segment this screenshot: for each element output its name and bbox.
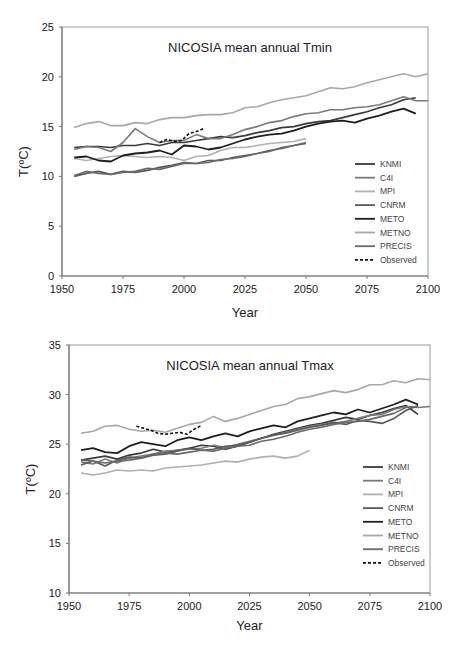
series-line-c4i bbox=[81, 407, 430, 465]
y-tick-label: 25 bbox=[49, 438, 61, 450]
legend-label: C4I bbox=[380, 173, 393, 183]
legend: KNMIC4IMPICNRMMETOMETNOPRECISObserved bbox=[355, 159, 417, 265]
x-tick-label: 2100 bbox=[418, 600, 442, 612]
legend-label: METO bbox=[380, 214, 405, 224]
legend-label: CNRM bbox=[380, 200, 406, 210]
series-line-cnrm bbox=[74, 144, 306, 177]
x-tick-label: 2075 bbox=[358, 600, 382, 612]
x-axis-title: Year bbox=[232, 305, 259, 320]
x-tick-label: 2025 bbox=[233, 283, 257, 295]
x-tick-label: 2100 bbox=[416, 283, 440, 295]
y-axis-title: T(ºC) bbox=[16, 146, 31, 177]
x-tick-label: 2050 bbox=[294, 283, 318, 295]
x-tick-label: 2000 bbox=[172, 283, 196, 295]
legend-label: PRECIS bbox=[388, 544, 420, 554]
tmax-chart-svg: 1015202530351950197520002025205020752100… bbox=[0, 323, 459, 646]
chart-title: NICOSIA mean annual Tmax bbox=[166, 358, 334, 373]
chart-title: NICOSIA mean annual Tmin bbox=[168, 40, 332, 55]
x-axis-title: Year bbox=[236, 618, 263, 633]
x-tick-label: 1950 bbox=[57, 600, 81, 612]
plot-area-frame bbox=[69, 345, 430, 593]
y-tick-label: 0 bbox=[48, 270, 54, 282]
y-tick-label: 35 bbox=[49, 339, 61, 351]
legend-label: MPI bbox=[388, 489, 403, 499]
legend-label: METNO bbox=[388, 531, 419, 541]
x-tick-label: 1975 bbox=[111, 283, 135, 295]
legend-label: KNMI bbox=[388, 462, 409, 472]
y-tick-label: 10 bbox=[42, 170, 54, 182]
y-tick-label: 10 bbox=[49, 587, 61, 599]
tmin-chart-svg: 05101520251950197520002025205020752100NI… bbox=[0, 0, 459, 323]
series-line-metno bbox=[81, 379, 430, 434]
y-tick-label: 30 bbox=[49, 389, 61, 401]
x-tick-label: 2025 bbox=[237, 600, 261, 612]
y-tick-label: 15 bbox=[49, 537, 61, 549]
legend-label: PRECIS bbox=[380, 241, 412, 251]
x-tick-label: 1975 bbox=[117, 600, 141, 612]
x-tick-label: 2000 bbox=[177, 600, 201, 612]
plot-area-frame bbox=[62, 27, 428, 276]
legend-label: METNO bbox=[380, 228, 411, 238]
x-tick-label: 2075 bbox=[355, 283, 379, 295]
legend-label: C4I bbox=[388, 476, 401, 486]
y-axis-title: T(ºC) bbox=[23, 464, 38, 495]
legend-label: METO bbox=[388, 517, 413, 527]
tmax-chart: 1015202530351950197520002025205020752100… bbox=[0, 323, 459, 646]
y-tick-label: 20 bbox=[42, 71, 54, 83]
y-tick-label: 5 bbox=[48, 220, 54, 232]
legend-label: CNRM bbox=[388, 503, 414, 513]
y-tick-label: 20 bbox=[49, 488, 61, 500]
y-tick-label: 15 bbox=[42, 121, 54, 133]
series-line-metno bbox=[74, 74, 428, 128]
y-tick-label: 25 bbox=[42, 21, 54, 33]
x-tick-label: 1950 bbox=[50, 283, 74, 295]
tmin-chart: 05101520251950197520002025205020752100NI… bbox=[0, 0, 459, 323]
legend: KNMIC4IMPICNRMMETOMETNOPRECISObserved bbox=[363, 462, 425, 568]
legend-label: MPI bbox=[380, 186, 395, 196]
legend-label: KNMI bbox=[380, 159, 401, 169]
series-line-observed bbox=[136, 425, 201, 434]
x-tick-label: 2050 bbox=[297, 600, 321, 612]
legend-label: Observed bbox=[388, 558, 425, 568]
legend-label: Observed bbox=[380, 255, 417, 265]
